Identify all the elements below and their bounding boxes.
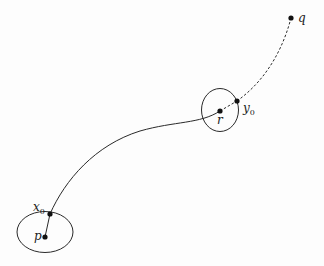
label-y0-sub: 0 <box>250 108 255 117</box>
point-q <box>288 15 293 20</box>
label-y0: y0 <box>242 101 255 117</box>
point-y0 <box>234 98 239 103</box>
label-x0-sub: 0 <box>40 207 45 216</box>
label-q: q <box>298 11 306 25</box>
label-x0: x0 <box>33 200 45 216</box>
label-r: r <box>217 113 224 127</box>
point-x0 <box>47 211 52 216</box>
path-diagram: p x0 r y0 q <box>0 0 324 266</box>
label-p: p <box>34 229 42 243</box>
segment-r-y0 <box>220 101 237 111</box>
curve-x0-r <box>50 111 220 214</box>
diagram-canvas: p x0 r y0 q <box>0 0 324 266</box>
neighborhood-p-ellipse <box>17 212 73 253</box>
point-p <box>42 234 47 239</box>
curve-y0-q <box>237 18 291 101</box>
segment-p-x0 <box>45 214 50 237</box>
